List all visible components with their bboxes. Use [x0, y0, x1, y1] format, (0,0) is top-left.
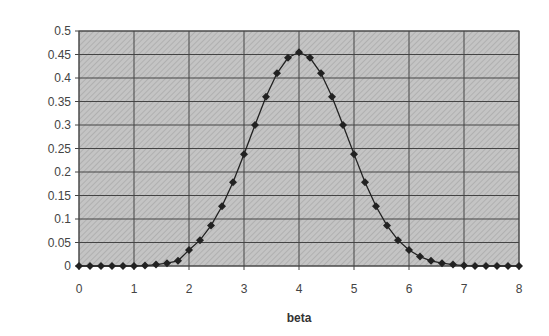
y-tick-label: 0.35	[48, 95, 72, 109]
chart: 00.050.10.150.20.250.30.350.40.450.5 012…	[0, 0, 549, 336]
y-tick-label: 0.15	[48, 189, 72, 203]
x-tick-label: 2	[186, 282, 193, 296]
x-tick-label: 5	[351, 282, 358, 296]
y-tick-label: 0.3	[54, 118, 71, 132]
x-tick-label: 7	[461, 282, 468, 296]
y-tick-label: 0.5	[54, 24, 71, 38]
y-tick-label: 0.2	[54, 165, 71, 179]
x-axis-ticks: 012345678	[76, 282, 523, 296]
y-tick-label: 0.45	[48, 48, 72, 62]
x-tick-label: 8	[516, 282, 523, 296]
x-tick-label: 0	[76, 282, 83, 296]
x-tick-label: 4	[296, 282, 303, 296]
y-tick-label: 0.1	[54, 212, 71, 226]
x-tick-label: 1	[131, 282, 138, 296]
y-axis-ticks: 00.050.10.150.20.250.30.350.40.450.5	[48, 24, 72, 273]
y-tick-label: 0	[64, 259, 71, 273]
y-tick-label: 0.25	[48, 142, 72, 156]
y-tick-label: 0.05	[48, 236, 72, 250]
x-tick-label: 6	[406, 282, 413, 296]
x-tick-label: 3	[241, 282, 248, 296]
x-axis-label: beta	[287, 311, 312, 325]
y-tick-label: 0.4	[54, 71, 71, 85]
